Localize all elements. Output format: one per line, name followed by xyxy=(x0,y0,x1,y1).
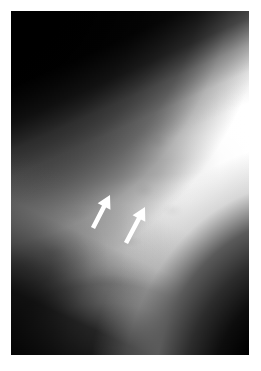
radiograph-image: Lateral chest radiograph xyxy=(11,11,249,355)
screenshot-root: Lateral chest radiograph xyxy=(0,0,261,371)
film-grain-layer xyxy=(11,11,249,355)
